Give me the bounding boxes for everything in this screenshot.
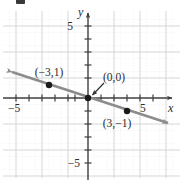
annotation-point-b: (3,−1) (103, 117, 132, 130)
clipped-glyph-above (16, 0, 25, 4)
coordinate-plane-figure: x y −5 5 5 −5 (−3,1) (0,0) (3,−1) (0, 0, 184, 185)
data-point-a (46, 82, 52, 88)
x-tick-label-negative: −5 (8, 102, 20, 114)
figure-background (0, 0, 184, 185)
x-tick-label-positive: 5 (140, 102, 146, 114)
data-point-origin (85, 95, 91, 101)
graph-svg: x y −5 5 5 −5 (−3,1) (0,0) (3,−1) (0, 0, 184, 185)
data-point-b (124, 108, 130, 114)
x-axis-label: x (167, 101, 174, 115)
annotation-point-a: (−3,1) (35, 66, 64, 79)
annotation-origin: (0,0) (103, 71, 125, 84)
y-tick-label-negative: −5 (68, 157, 80, 169)
y-axis-label: y (77, 5, 84, 19)
y-tick-label-positive: 5 (67, 20, 73, 32)
